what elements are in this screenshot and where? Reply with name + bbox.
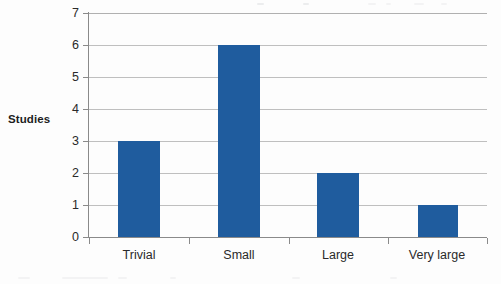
bar-large[interactable]: [317, 173, 359, 237]
scan-artifact: [257, 3, 264, 5]
scan-artifact: [303, 3, 309, 5]
y-tick-label: 6: [51, 38, 79, 52]
scan-artifact: [386, 3, 391, 5]
scan-artifact: [368, 3, 376, 5]
x-axis-tick-mark: [487, 238, 488, 244]
scan-artifact: [118, 277, 127, 279]
x-axis-tick-mark: [189, 238, 190, 244]
bar-very-large[interactable]: [418, 205, 458, 237]
x-axis-label-very-large: Very large: [387, 248, 487, 262]
gridline: [89, 77, 487, 78]
scan-artifact: [414, 3, 424, 5]
y-tick-label: 1: [51, 198, 79, 212]
scan-artifact: [62, 277, 108, 279]
y-tick-label: 0: [51, 230, 79, 244]
y-tick-label: 2: [51, 166, 79, 180]
scan-artifact: [292, 277, 300, 279]
gridline: [89, 109, 487, 110]
scan-artifact: [170, 277, 176, 279]
y-tick-label: 5: [51, 70, 79, 84]
x-axis-label-large: Large: [288, 248, 388, 262]
x-axis-label-small: Small: [189, 248, 289, 262]
x-axis-line: [89, 237, 487, 238]
x-axis-tick-mark: [388, 238, 389, 244]
x-axis-labels: Trivial Small Large Very large: [89, 248, 487, 268]
x-axis-tick-mark: [289, 238, 290, 244]
gridline: [89, 45, 487, 46]
scan-artifact: [18, 277, 30, 279]
x-axis-label-trivial: Trivial: [89, 248, 189, 262]
y-tick-label: 3: [51, 134, 79, 148]
bar-trivial[interactable]: [118, 141, 160, 237]
x-axis-tick-mark: [89, 238, 90, 244]
bar-small[interactable]: [218, 45, 260, 237]
y-tick-label: 7: [51, 6, 79, 20]
plot-area: [89, 13, 487, 237]
y-axis-tick-labels: 7 6 5 4 3 2 1 0: [49, 13, 79, 237]
bar-chart-figure: Studies 7 6 5 4 3 2 1 0 Tr: [0, 0, 501, 284]
y-tick-label: 4: [51, 102, 79, 116]
scan-artifact: [441, 3, 447, 5]
scan-artifact: [390, 277, 397, 279]
gridline: [89, 13, 487, 14]
